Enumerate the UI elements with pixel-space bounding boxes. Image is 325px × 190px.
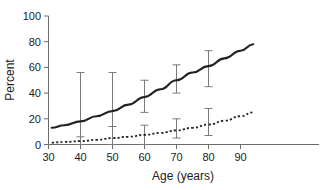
y-tick-label-40: 40 [29,87,41,99]
y-axis-tick-labels: 020406080100 [23,10,41,151]
chart-plot-area: 020406080100 30405060708090 Percent Age … [0,0,325,190]
series-line-dotted-curve [52,112,254,142]
y-tick-label-100: 100 [23,10,41,22]
series-line-solid-curve [52,44,254,128]
x-tick-label-70: 70 [170,151,182,163]
error-bar-dotted-curve-50 [109,127,117,145]
y-axis-title: Percent [3,59,17,101]
y-tick-label-0: 0 [35,139,41,151]
x-axis-ticks [49,145,241,150]
x-tick-label-40: 40 [74,151,86,163]
series-lines-group [52,44,254,142]
x-tick-label-30: 30 [42,151,54,163]
x-axis-tick-labels: 30405060708090 [42,151,246,163]
error-bar-solid-curve-80 [205,51,213,87]
error-bar-solid-curve-40 [77,73,85,145]
y-axis-ticks [44,16,49,145]
x-tick-label-60: 60 [138,151,150,163]
x-tick-label-50: 50 [106,151,118,163]
y-tick-label-20: 20 [29,113,41,125]
y-tick-label-60: 60 [29,61,41,73]
error-bar-dotted-curve-70 [173,119,181,138]
x-axis-title: Age (years) [152,169,214,183]
error-bar-dotted-curve-80 [205,109,213,136]
chart-figure: 020406080100 30405060708090 Percent Age … [0,0,325,190]
x-tick-label-90: 90 [234,151,246,163]
y-tick-label-80: 80 [29,36,41,48]
x-tick-label-80: 80 [202,151,214,163]
